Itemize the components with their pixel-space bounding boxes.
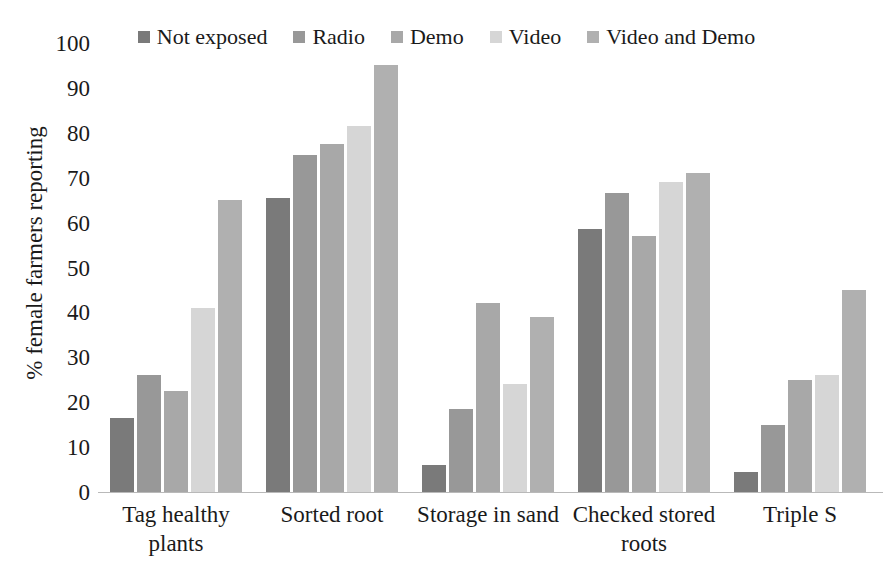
- bar[interactable]: [632, 236, 656, 492]
- legend-swatch-icon: [391, 31, 403, 43]
- x-axis-category-label-line: roots: [570, 529, 718, 558]
- bar[interactable]: [503, 384, 527, 492]
- y-axis-tick-label: 10: [34, 436, 90, 459]
- y-axis-tick-label: 80: [34, 122, 90, 145]
- bar[interactable]: [530, 317, 554, 492]
- x-axis-category-label-line: Sorted root: [258, 500, 406, 529]
- bar[interactable]: [605, 193, 629, 492]
- x-axis-category-label: Storage in sand: [410, 500, 566, 558]
- y-axis-tick-label: 20: [34, 391, 90, 414]
- bar[interactable]: [374, 65, 398, 492]
- bar[interactable]: [842, 290, 866, 492]
- bar[interactable]: [218, 200, 242, 492]
- bar[interactable]: [761, 425, 785, 492]
- x-axis-category-label-line: plants: [102, 529, 250, 558]
- x-axis-category-label-line: Triple S: [726, 500, 874, 529]
- bar-group: [722, 43, 878, 492]
- y-axis-tick-label: 100: [34, 32, 90, 55]
- x-axis-category-label: Triple S: [722, 500, 878, 558]
- bar-group: [566, 43, 722, 492]
- y-axis-tick-label: 60: [34, 212, 90, 235]
- legend-swatch-icon: [490, 31, 502, 43]
- bar[interactable]: [659, 182, 683, 492]
- bar[interactable]: [347, 126, 371, 492]
- legend-swatch-icon: [138, 31, 150, 43]
- bar[interactable]: [110, 418, 134, 492]
- y-axis-tick-label: 30: [34, 346, 90, 369]
- y-axis-tick-label: 0: [34, 481, 90, 504]
- bar[interactable]: [686, 173, 710, 492]
- y-axis-tick-label: 40: [34, 301, 90, 324]
- bar[interactable]: [137, 375, 161, 492]
- bar[interactable]: [815, 375, 839, 492]
- y-axis-tick-label: 90: [34, 77, 90, 100]
- x-axis-category-label-line: Checked stored: [570, 500, 718, 529]
- y-axis-tick-label: 70: [34, 167, 90, 190]
- bar[interactable]: [476, 303, 500, 492]
- bar-group: [254, 43, 410, 492]
- y-axis-tick-labels: 1009080706050403020100: [30, 43, 90, 492]
- x-axis-category-labels: Tag healthyplantsSorted rootStorage in s…: [98, 500, 878, 558]
- bar-group: [98, 43, 254, 492]
- x-axis-category-label-line: Storage in sand: [414, 500, 562, 529]
- y-axis-tick-label: 50: [34, 257, 90, 280]
- bar[interactable]: [293, 155, 317, 492]
- bar-group: [410, 43, 566, 492]
- x-axis-category-label: Tag healthyplants: [98, 500, 254, 558]
- bar[interactable]: [164, 391, 188, 492]
- bar[interactable]: [449, 409, 473, 492]
- bar[interactable]: [191, 308, 215, 492]
- x-axis-line: [98, 492, 883, 493]
- bar[interactable]: [578, 229, 602, 492]
- bar-groups: [98, 43, 878, 492]
- legend-swatch-icon: [293, 31, 305, 43]
- x-axis-category-label-line: Tag healthy: [102, 500, 250, 529]
- bar[interactable]: [422, 465, 446, 492]
- x-axis-category-label: Checked storedroots: [566, 500, 722, 558]
- bar[interactable]: [734, 472, 758, 492]
- bar-chart-figure: Not exposedRadioDemoVideoVideo and Demo …: [0, 0, 893, 584]
- x-axis-category-label: Sorted root: [254, 500, 410, 558]
- bar[interactable]: [266, 198, 290, 492]
- legend-swatch-icon: [587, 31, 599, 43]
- bar[interactable]: [788, 380, 812, 492]
- bar[interactable]: [320, 144, 344, 492]
